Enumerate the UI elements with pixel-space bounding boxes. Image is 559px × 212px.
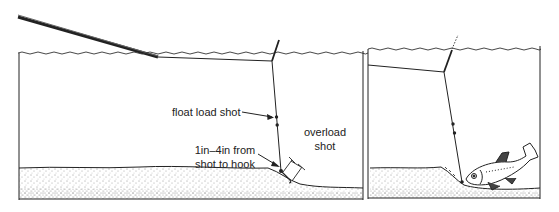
overload-shot-label-line2: shot [298,140,352,153]
float [272,40,279,61]
distance-label-line2: shot to hook [186,158,264,171]
float-load-shot-2 [276,123,279,126]
float-load-shot-label: float load shot [172,106,241,119]
overload-shot-label-line1: overload [298,126,352,139]
fish-illustration [466,143,538,190]
right-panel [368,35,541,199]
distance-label-line1: 1in–4in from [186,144,264,157]
water-surface-right [368,48,541,50]
fishing-rod [18,15,158,57]
float-load-shot-arrow [242,112,274,120]
diagram-canvas [0,0,559,212]
float-load-shot-1 [275,115,278,118]
water-surface [18,52,368,54]
fishing-line [158,57,272,61]
float-right [444,50,452,72]
